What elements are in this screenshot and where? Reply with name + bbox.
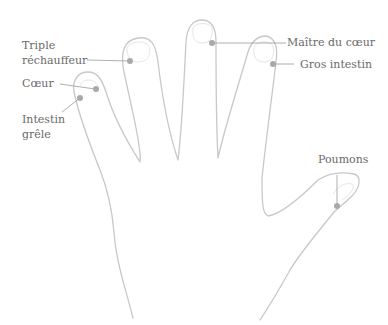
point-intestin-grele (77, 95, 83, 101)
point-triple-rechauffeur (127, 58, 133, 64)
point-gros-intestin (270, 61, 276, 67)
point-maitre-du-coeur (209, 40, 215, 46)
label-poumons: Poumons (318, 152, 368, 167)
label-coeur: Cœur (22, 76, 54, 91)
label-intestin-grele: Intestin grêle (22, 112, 65, 142)
label-gros-intestin: Gros intestin (300, 57, 372, 72)
leader-coeur (60, 84, 95, 89)
point-poumons (334, 203, 340, 209)
nail-little-finger (80, 80, 98, 86)
point-coeur (93, 86, 99, 92)
leader-triple-rechauffeur (87, 60, 130, 61)
hand-meridian-diagram: Triple réchauffeur Cœur Intestin grêle M… (0, 0, 388, 325)
label-maitre-du-coeur: Maître du cœur (287, 35, 375, 50)
label-triple-rechauffeur: Triple réchauffeur (22, 38, 87, 68)
nail-index-finger (254, 42, 274, 62)
nail-middle-finger (193, 24, 212, 44)
